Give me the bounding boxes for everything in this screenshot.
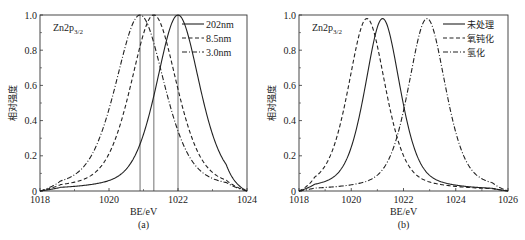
legend-label: 202nm [206, 19, 234, 30]
legend-label: 氢化 [467, 47, 485, 58]
y-tick-label: 0.4 [25, 115, 38, 126]
x-tick-label: 1020 [341, 194, 361, 205]
legend-label: 8.5nm [206, 33, 232, 44]
legend-label: 未处理 [467, 19, 494, 30]
x-axis-title: BE/eV [130, 206, 158, 217]
panel-label: (b) [398, 219, 410, 231]
x-tick-label: 1018 [289, 194, 309, 205]
panel-label: (a) [138, 219, 149, 231]
y-tick-label: 0.8 [25, 45, 38, 56]
y-tick-label: 0.6 [284, 80, 297, 91]
chart-panel-b: 00.20.40.60.81.010181020102210241026BE/e… [266, 10, 518, 232]
y-tick-label: 0.2 [284, 150, 297, 161]
y-tick-label: 0.8 [284, 45, 297, 56]
series-line [299, 19, 508, 191]
x-tick-label: 1022 [394, 194, 414, 205]
x-tick-label: 1026 [498, 194, 518, 205]
y-axis-title: 相对强度 [7, 85, 18, 121]
peak-annotation: Zn2p3/2 [312, 22, 343, 36]
y-tick-label: 0.2 [25, 150, 38, 161]
x-tick-label: 1022 [168, 194, 188, 205]
x-tick-label: 1024 [446, 194, 466, 205]
y-tick-label: 0.6 [25, 80, 38, 91]
x-axis-title: BE/eV [390, 206, 418, 217]
peak-annotation: Zn2p3/2 [53, 22, 84, 36]
x-tick-label: 1020 [99, 194, 119, 205]
y-tick-label: 1.0 [284, 10, 297, 21]
y-axis-title: 相对强度 [266, 85, 277, 121]
legend-label: 3.0nm [206, 47, 232, 58]
x-tick-label: 1024 [237, 194, 257, 205]
y-tick-label: 1.0 [25, 10, 38, 21]
y-tick-label: 0.4 [284, 115, 297, 126]
legend-label: 氧钝化 [467, 33, 494, 44]
figure: 00.20.40.60.81.01018102010221024BE/eV(a)… [0, 0, 525, 240]
x-tick-label: 1018 [30, 194, 50, 205]
chart-panel-a: 00.20.40.60.81.01018102010221024BE/eV(a)… [7, 10, 257, 232]
